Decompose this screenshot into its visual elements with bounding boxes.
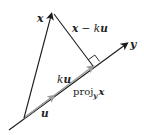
label-y: y bbox=[129, 38, 138, 51]
label-x: x bbox=[36, 12, 44, 25]
label-x-minus-ku: x − ku bbox=[71, 22, 108, 34]
label-proj-y-x: projyx bbox=[73, 86, 105, 100]
label-u: u bbox=[41, 107, 49, 119]
y-axis-line bbox=[9, 44, 127, 131]
right-angle-marker bbox=[88, 55, 99, 61]
projection-diagram: x x − ku y ku projyx u bbox=[0, 0, 144, 135]
label-ku: ku bbox=[57, 73, 71, 85]
